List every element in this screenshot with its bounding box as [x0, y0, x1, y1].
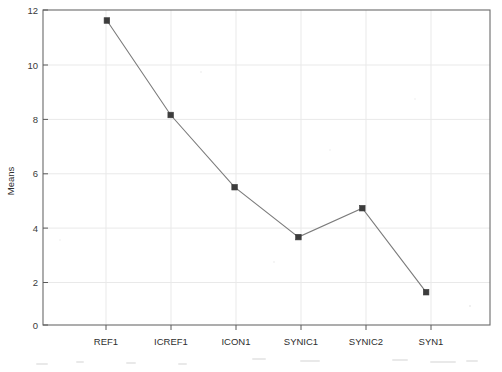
y-tick-labels: 12 10 8 6 4 2 0	[27, 5, 38, 331]
data-point-ref1[interactable]	[104, 18, 110, 24]
data-point-icref1[interactable]	[168, 112, 174, 118]
x-tick-label-icref1: ICREF1	[154, 336, 188, 347]
x-tick-label-synic1: SYNIC1	[284, 336, 318, 347]
y-axis-title: Means	[5, 166, 16, 195]
x-tick-label-syn1: SYN1	[419, 336, 444, 347]
y-tick-label-6: 6	[33, 168, 38, 179]
y-tick-label-0: 0	[33, 320, 38, 331]
y-tick-label-2: 2	[33, 277, 38, 288]
line-chart: 12 10 8 6 4 2 0 Means REF1 ICREF1 ICON1 …	[0, 0, 502, 372]
x-tick-label-synic2: SYNIC2	[349, 336, 383, 347]
x-tick-label-ref1: REF1	[94, 336, 118, 347]
y-tick-label-8: 8	[33, 114, 38, 125]
data-point-synic1[interactable]	[296, 234, 302, 240]
data-point-icon1[interactable]	[232, 184, 238, 190]
x-tick-label-icon1: ICON1	[221, 336, 250, 347]
data-point-syn1[interactable]	[423, 289, 429, 295]
plot-background	[43, 10, 490, 325]
data-point-synic2[interactable]	[360, 205, 366, 211]
y-tick-label-10: 10	[27, 60, 38, 71]
y-tick-label-4: 4	[33, 223, 38, 234]
x-tick-labels: REF1 ICREF1 ICON1 SYNIC1 SYNIC2 SYN1	[94, 336, 444, 347]
x-axis-ticks	[106, 325, 431, 330]
chart-figure: 12 10 8 6 4 2 0 Means REF1 ICREF1 ICON1 …	[0, 0, 502, 372]
y-tick-label-12: 12	[27, 5, 38, 16]
